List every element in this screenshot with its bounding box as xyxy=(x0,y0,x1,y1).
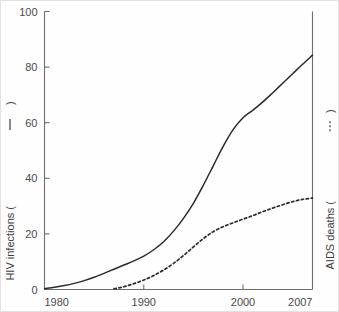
y-tick-label-0: 0 xyxy=(31,284,37,296)
y-axis-right-title-close: ) xyxy=(324,109,336,113)
y-axis-right-title: AIDS deaths ( ) xyxy=(324,109,336,269)
x-tick-label-2007: 2007 xyxy=(288,296,312,308)
x-tick-label-1990: 1990 xyxy=(132,296,156,308)
chart-canvas: 020406080100 1980199020002007 HIV infect… xyxy=(1,1,339,312)
x-tick-label-1980: 1980 xyxy=(45,296,69,308)
x-axis-ticks: 1980199020002007 xyxy=(45,285,313,308)
x-tick-label-2000: 2000 xyxy=(231,296,255,308)
y-axis-right-title-text: AIDS deaths ( xyxy=(324,201,336,270)
series-hiv-infections xyxy=(45,55,313,289)
series-aids-deaths xyxy=(114,198,313,289)
y-axis-left-title: HIV infections ( ) xyxy=(4,101,16,280)
y-tick-label-20: 20 xyxy=(25,228,37,240)
y-tick-label-40: 40 xyxy=(25,172,37,184)
y-tick-label-80: 80 xyxy=(25,61,37,73)
figure-container: 020406080100 1980199020002007 HIV infect… xyxy=(0,0,339,312)
y-tick-label-100: 100 xyxy=(19,6,37,18)
y-axis-left-title-text: HIV infections ( xyxy=(4,206,16,281)
y-axis-left-title-close: ) xyxy=(4,101,16,105)
y-tick-label-60: 60 xyxy=(25,117,37,129)
